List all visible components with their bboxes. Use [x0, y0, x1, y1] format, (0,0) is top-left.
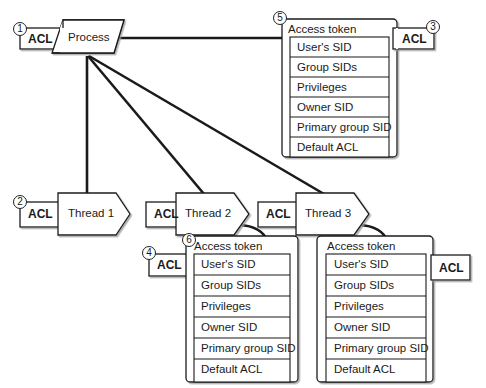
thread3-acl-label: ACL	[266, 208, 291, 220]
token-title: Access token	[327, 241, 395, 253]
token-field-group-sids: Group SIDs	[297, 62, 357, 74]
token-field-users-sid: User's SID	[297, 42, 352, 54]
callout-1: 1	[13, 22, 27, 36]
token-field-owner-sid: Owner SID	[334, 322, 390, 334]
token-field-users-sid: User's SID	[334, 259, 389, 271]
token-field-group-sids: Group SIDs	[201, 280, 261, 292]
thread3-label: Thread 3	[305, 208, 351, 220]
token-field-group-sids: Group SIDs	[334, 280, 394, 292]
token-title: Access token	[288, 24, 356, 36]
token-field-default-acl: Default ACL	[334, 364, 395, 376]
token-field-privileges: Privileges	[201, 301, 251, 313]
process-to-thread2-line	[88, 56, 204, 194]
thread2-acl-label: ACL	[154, 208, 179, 220]
token-field-default-acl: Default ACL	[201, 364, 262, 376]
callout-5: 5	[273, 11, 287, 25]
token-field-privileges: Privileges	[297, 82, 347, 94]
token-field-owner-sid: Owner SID	[297, 102, 353, 114]
token-field-users-sid: User's SID	[201, 259, 256, 271]
process-acl-label: ACL	[28, 33, 53, 45]
token-field-primary-group-sid: Primary group SID	[201, 343, 296, 355]
thread2-token-acl-label: ACL	[157, 259, 182, 271]
process-token-acl-label: ACL	[402, 33, 427, 45]
token-field-owner-sid: Owner SID	[201, 322, 257, 334]
token-fields	[290, 37, 389, 157]
token-field-primary-group-sid: Primary group SID	[334, 343, 429, 355]
thread1-label: Thread 1	[68, 208, 114, 220]
thread1-acl-label: ACL	[28, 208, 53, 220]
callout-3: 3	[426, 20, 440, 34]
callout-2: 2	[13, 195, 27, 209]
callout-4: 4	[142, 246, 156, 260]
token-title: Access token	[194, 241, 262, 253]
token-field-primary-group-sid: Primary group SID	[297, 122, 392, 134]
token-field-privileges: Privileges	[334, 301, 384, 313]
thread2-label: Thread 2	[185, 208, 231, 220]
thread3-token-acl-label: ACL	[439, 262, 464, 274]
token-field-default-acl: Default ACL	[297, 142, 358, 154]
process-label: Process	[68, 32, 110, 44]
